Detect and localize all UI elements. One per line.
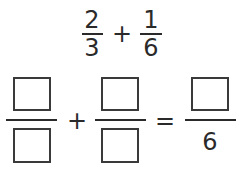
denominator-6: 6 [141,36,161,60]
fraction-bar [95,119,146,121]
numerator-input-box-2[interactable] [101,77,139,111]
result-numerator-input-box[interactable] [191,77,229,111]
numerator-1: 1 [141,8,161,32]
numerator-input-box-1[interactable] [13,77,51,111]
denominator-input-box-1[interactable] [13,128,51,163]
plus-sign: + [112,22,130,46]
denominator-3: 3 [82,36,102,60]
fraction-bar [185,119,236,121]
plus-sign: + [67,109,85,133]
result-denominator-6: 6 [200,130,220,154]
equals-sign: = [155,109,173,133]
numerator-2: 2 [82,8,102,32]
denominator-input-box-2[interactable] [101,128,139,163]
fraction-bar [6,119,57,121]
